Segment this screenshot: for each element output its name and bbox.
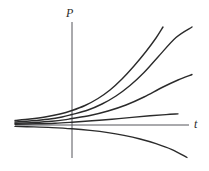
solution-curve xyxy=(15,75,192,124)
solution-curves-group xyxy=(15,27,192,158)
population-axis-label: P xyxy=(66,7,73,19)
plot-svg xyxy=(0,0,209,171)
solution-curve xyxy=(15,27,192,122)
time-axis-label: t xyxy=(194,118,197,130)
figure-canvas: P t xyxy=(0,0,209,171)
axes-group xyxy=(15,22,189,158)
solution-curve xyxy=(15,126,187,157)
solution-curve xyxy=(15,27,163,121)
